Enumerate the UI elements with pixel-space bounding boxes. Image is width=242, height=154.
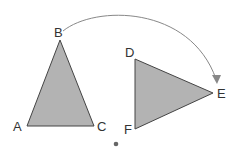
triangle-def [135,59,213,129]
triangle-abc [27,40,94,126]
label-e: E [217,86,226,101]
diagram-canvas: A B C D E F [0,0,242,154]
rotation-center-point [114,142,119,147]
rotation-diagram: A B C D E F [0,0,242,154]
label-b: B [54,25,63,40]
arrowhead-icon [212,75,221,84]
label-d: D [125,45,134,60]
label-a: A [13,119,22,134]
label-c: C [97,119,106,134]
label-f: F [124,122,132,137]
